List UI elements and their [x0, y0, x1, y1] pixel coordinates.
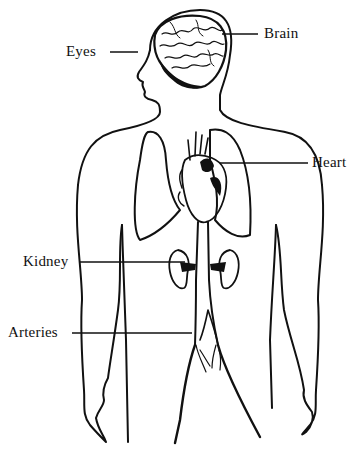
legs-outline	[175, 310, 260, 443]
major-vessels-drawing	[195, 222, 218, 345]
label-heart: Heart	[312, 155, 346, 170]
label-eyes: Eyes	[66, 44, 96, 59]
brain-drawing	[154, 16, 226, 89]
torso-outline	[77, 185, 323, 442]
label-arteries: Arteries	[8, 325, 58, 340]
label-brain: Brain	[264, 26, 298, 41]
human-body-diagram: Brain Eyes Heart Kidney Arteries	[0, 0, 358, 469]
arteries-drawing	[196, 345, 221, 372]
lungs-drawing	[135, 130, 251, 240]
kidneys-drawing	[169, 250, 238, 288]
label-kidney: Kidney	[23, 254, 68, 269]
heart-drawing	[178, 132, 226, 222]
body-outline-drawing	[0, 0, 358, 469]
